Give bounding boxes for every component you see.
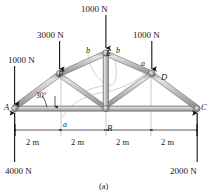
- load-E: 1000 N: [81, 5, 108, 14]
- section-label-b-left: b: [86, 47, 90, 55]
- joint-A: A: [4, 103, 9, 112]
- reaction-A: 4000 N: [5, 167, 32, 176]
- figure-caption: (a): [99, 182, 108, 191]
- joint-B: B: [107, 124, 112, 133]
- member-BD: [103, 71, 153, 109]
- truss-members: [13, 50, 199, 111]
- joint-E: E: [106, 49, 111, 58]
- pin-D: [149, 70, 155, 76]
- joint-D: D: [161, 73, 167, 82]
- pin-C: [194, 106, 200, 112]
- dimension-span-4: 2 m: [161, 138, 174, 147]
- dimension-span-2: 2 m: [71, 138, 84, 147]
- pin-B: [103, 106, 109, 112]
- section-label-a-upper: a: [141, 60, 145, 68]
- load-D: 1000 N: [133, 31, 160, 40]
- reaction-C: 2000 N: [170, 167, 197, 176]
- joint-C: C: [201, 103, 207, 112]
- angle-label-30: 30°: [36, 92, 47, 100]
- load-A: 1000 N: [8, 56, 35, 65]
- pin-A: [12, 106, 18, 112]
- member-FB: [56, 71, 107, 109]
- section-cut-b2: [84, 86, 106, 92]
- member-EB: [103, 52, 108, 110]
- dimension-span-3: 2 m: [116, 138, 129, 147]
- section-label-a-lower: a: [63, 121, 67, 129]
- member-DC: [149, 71, 199, 110]
- joint-F: F: [58, 70, 63, 79]
- load-F: 3000 N: [37, 31, 64, 40]
- dimension-span-1: 2 m: [26, 138, 39, 147]
- section-label-b-right: b: [116, 47, 120, 55]
